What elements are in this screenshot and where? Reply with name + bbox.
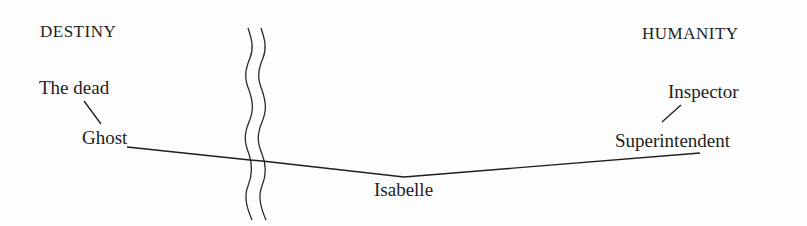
connector-dead-ghost <box>84 101 101 124</box>
node-isabelle: Isabelle <box>374 180 433 200</box>
connector-inspector-superintendent <box>662 105 681 122</box>
wavy-divider-left <box>245 28 252 220</box>
diagram-canvas: DESTINY HUMANITY The dead Ghost Isabelle… <box>0 0 807 226</box>
node-the-dead: The dead <box>39 78 109 98</box>
heading-destiny: DESTINY <box>40 22 116 42</box>
node-superintendent: Superintendent <box>615 131 730 151</box>
main-relation-line <box>127 147 700 177</box>
heading-humanity: HUMANITY <box>642 24 739 44</box>
node-inspector: Inspector <box>668 82 739 102</box>
node-ghost: Ghost <box>82 128 127 148</box>
wavy-divider-right <box>258 28 266 220</box>
